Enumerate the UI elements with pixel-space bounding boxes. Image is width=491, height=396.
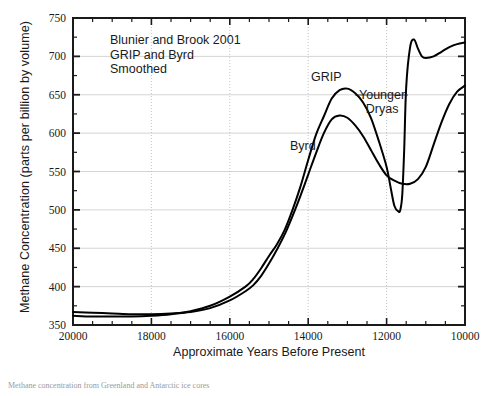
annotation-grip-label: GRIP: [311, 70, 342, 85]
annotation-younger-dryas-label: Younger Dryas: [359, 88, 405, 116]
x-axis-title: Approximate Years Before Present: [73, 345, 465, 359]
figure-methane-concentration: Methane Concentration (parts per billion…: [0, 0, 491, 396]
plot-area: [0, 0, 491, 396]
page-caption: Methane concentration from Greenland and…: [8, 381, 478, 394]
annotation-byrd-label: Byrd: [290, 139, 316, 154]
line-series-grip: [73, 39, 465, 316]
annotation-source-credit: Blunier and Brook 2001 GRIP and Byrd Smo…: [110, 33, 241, 77]
line-series-byrd: [73, 86, 465, 315]
